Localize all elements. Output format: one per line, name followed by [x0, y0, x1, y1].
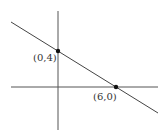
graph-line — [11, 22, 158, 113]
label-x-intercept: (6,0) — [93, 91, 117, 102]
label-y-intercept: (0,4) — [33, 52, 57, 63]
coordinate-diagram: (0,4) (6,0) — [0, 0, 168, 139]
point-x-intercept — [114, 85, 118, 89]
